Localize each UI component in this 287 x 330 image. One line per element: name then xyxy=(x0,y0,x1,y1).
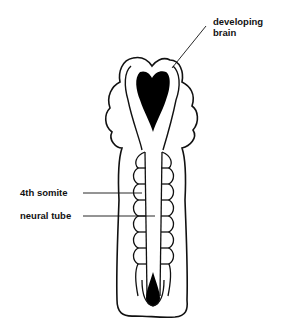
brain-leader-line xyxy=(172,26,206,68)
brain-label-line1: developing xyxy=(213,16,263,27)
neural-tube-tail-shape xyxy=(146,272,160,306)
somite-label: 4th somite xyxy=(20,187,68,198)
brain-label: developing brain xyxy=(213,16,263,38)
embryo-diagram xyxy=(0,0,287,330)
somites-right xyxy=(160,152,174,296)
neural-tube-label: neural tube xyxy=(20,210,71,221)
somites-left xyxy=(134,152,148,296)
developing-brain-shape xyxy=(136,71,170,132)
brain-label-line2: brain xyxy=(213,27,263,38)
